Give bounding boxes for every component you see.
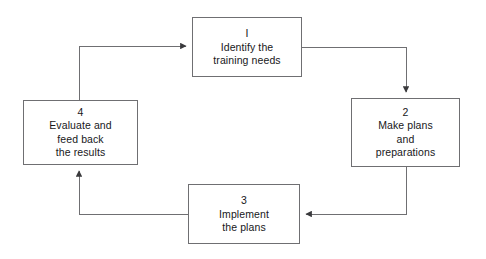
process-box-evaluate-and-feed-back-the-results[interactable]: 4 Evaluate and feed back the results [23, 100, 138, 165]
connector-4-to-1 [79, 46, 186, 100]
box-number: 2 [403, 106, 409, 120]
connector-1-to-2 [302, 47, 406, 92]
box-number: 3 [241, 194, 247, 208]
box-label: Identify the training needs [213, 41, 280, 67]
box-label: Evaluate and feed back the results [49, 119, 112, 159]
box-number: I [245, 27, 248, 41]
process-box-implement-the-plans[interactable]: 3 Implement the plans [188, 184, 300, 244]
box-label: Implement the plans [219, 208, 269, 234]
connector-3-to-4 [79, 171, 188, 214]
process-box-make-plans-and-preparations[interactable]: 2 Make plans and preparations [351, 98, 460, 167]
process-box-identify-training-needs[interactable]: I Identify the training needs [192, 17, 302, 77]
box-label: Make plans and preparations [376, 119, 436, 159]
connector-2-to-3 [306, 167, 406, 214]
diagram-canvas: I Identify the training needs 2 Make pla… [0, 0, 486, 259]
box-number: 4 [78, 106, 84, 120]
